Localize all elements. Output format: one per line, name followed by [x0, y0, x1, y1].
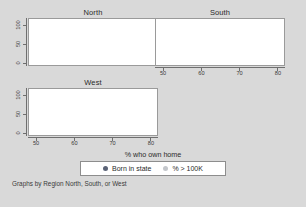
y-tick-west-0 [23, 133, 26, 134]
x-ticklabel-west-80: 80 [148, 140, 154, 146]
panel-west [28, 88, 158, 136]
plot-area-north [29, 19, 157, 65]
panel-south [155, 18, 285, 66]
legend-label-income-over-100k: % > 100K [172, 165, 203, 172]
y-tick-west-100 [23, 95, 26, 96]
y-ticklabel-north-100: 100 [15, 20, 21, 29]
y-ticklabel-north-50: 50 [15, 41, 21, 47]
y-tick-north-0 [23, 63, 26, 64]
legend: Born in state % > 100K [80, 161, 226, 176]
x-ticklabel-south-50: 50 [160, 70, 166, 76]
y-axis-line-north [26, 18, 27, 66]
y-ticklabel-north-0: 0 [15, 62, 21, 65]
x-axis-title: % who own home [0, 150, 306, 159]
legend-marker-income-over-100k [163, 166, 168, 171]
y-tick-north-100 [23, 25, 26, 26]
legend-entry-born-in-state[interactable]: Born in state [103, 165, 151, 172]
x-axis-line-west [28, 137, 158, 138]
x-ticklabel-south-80: 80 [275, 70, 281, 76]
y-tick-north-50 [23, 44, 26, 45]
legend-label-born-in-state: Born in state [112, 165, 151, 172]
x-ticklabel-south-70: 70 [236, 70, 242, 76]
x-ticklabel-west-70: 70 [109, 140, 115, 146]
panel-north [28, 18, 158, 66]
y-ticklabel-west-0: 0 [15, 132, 21, 135]
x-ticklabel-west-60: 60 [71, 140, 77, 146]
y-axis-line-west [26, 88, 27, 136]
panel-title-west: West [28, 78, 158, 87]
x-axis-line-south [155, 67, 285, 68]
x-ticklabel-west-50: 50 [33, 140, 39, 146]
panel-title-north: North [28, 8, 158, 17]
y-ticklabel-west-100: 100 [15, 90, 21, 99]
figure-caption: Graphs by Region North, South, or West [12, 180, 127, 187]
legend-marker-born-in-state [103, 166, 108, 171]
y-tick-west-50 [23, 114, 26, 115]
y-ticklabel-west-50: 50 [15, 111, 21, 117]
legend-entry-income-over-100k[interactable]: % > 100K [163, 165, 203, 172]
plot-area-south [156, 19, 284, 65]
x-ticklabel-south-60: 60 [198, 70, 204, 76]
plot-area-west [29, 89, 157, 135]
panel-title-south: South [155, 8, 285, 17]
stata-scatter-figure: North 0 50 100 South 50 60 70 80 West 0 … [0, 0, 306, 207]
